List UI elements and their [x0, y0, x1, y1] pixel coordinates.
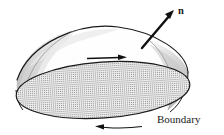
boundary-orientation-arrow — [95, 124, 142, 129]
figure-container: n Boundary — [0, 0, 224, 135]
boundary-arrow-head — [95, 124, 104, 129]
boundary-label: Boundary — [157, 113, 201, 125]
boundary-arrow-shaft — [103, 127, 142, 128]
oriented-surface-figure: n Boundary — [0, 0, 224, 135]
normal-vector-label: n — [178, 5, 184, 16]
